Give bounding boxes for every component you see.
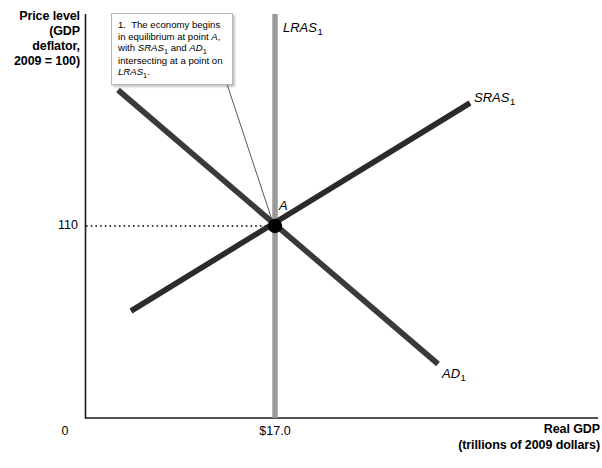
x-axis-title-line-1: Real GDP bbox=[392, 421, 600, 437]
diagram-svg bbox=[0, 0, 602, 468]
y-axis-tick-label-110: 110 bbox=[38, 218, 78, 232]
lras1-label-text: LRAS bbox=[283, 20, 317, 35]
sras1-curve bbox=[131, 103, 470, 311]
ad1-label-text: AD bbox=[442, 366, 460, 381]
x-axis-title-line-2: (trillions of 2009 dollars) bbox=[392, 437, 600, 453]
equilibrium-point-label: A bbox=[279, 198, 288, 213]
equilibrium-point-marker bbox=[268, 219, 282, 233]
lras1-curve-label: LRAS1 bbox=[283, 20, 323, 35]
y-axis-title-line-2: (GDP bbox=[0, 24, 80, 39]
ad1-label-subscript: 1 bbox=[460, 372, 466, 383]
sras1-curve-label: SRAS1 bbox=[474, 90, 515, 105]
x-axis-title: Real GDP (trillions of 2009 dollars) bbox=[392, 421, 600, 453]
annotation-callout-text: 1. The economy begins in equilibrium at … bbox=[118, 19, 223, 77]
annotation-callout-box: 1. The economy begins in equilibrium at … bbox=[111, 13, 233, 85]
y-axis-title-line-3: deflator, bbox=[0, 39, 80, 54]
lras1-label-subscript: 1 bbox=[317, 26, 323, 37]
y-axis-title-line-4: 2009 = 100) bbox=[0, 54, 80, 69]
sras1-label-subscript: 1 bbox=[509, 96, 515, 107]
figure-canvas: Price level (GDP deflator, 2009 = 100) R… bbox=[0, 0, 602, 468]
x-axis-tick-label-17: $17.0 bbox=[245, 424, 305, 438]
ad1-curve-label: AD1 bbox=[442, 366, 466, 381]
axis-origin-label: 0 bbox=[57, 424, 73, 438]
sras1-label-text: SRAS bbox=[474, 90, 509, 105]
y-axis-title: Price level (GDP deflator, 2009 = 100) bbox=[0, 9, 80, 69]
y-axis-title-line-1: Price level bbox=[0, 9, 80, 24]
